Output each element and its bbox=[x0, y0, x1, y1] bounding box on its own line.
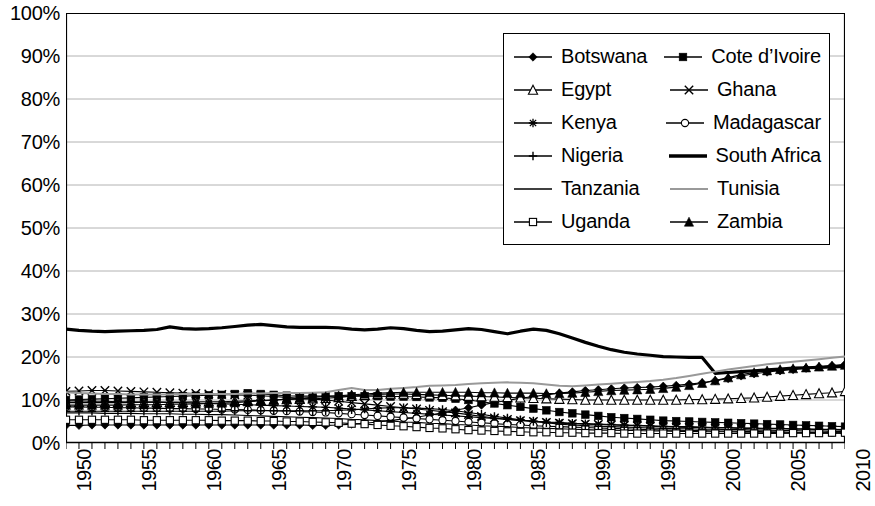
x-axis: 1950195519601965197019751980198519901995… bbox=[66, 449, 845, 506]
legend-item-ghana[interactable]: Ghana bbox=[668, 78, 776, 101]
y-axis-tick-label: 50% bbox=[21, 217, 60, 240]
legend-label: Uganda bbox=[561, 210, 630, 233]
x-axis-tick-label: 1975 bbox=[398, 449, 421, 492]
legend-item-uganda[interactable]: Uganda bbox=[512, 210, 668, 233]
legend-marker-icon bbox=[667, 146, 709, 166]
legend-label: Egypt bbox=[561, 78, 611, 101]
legend-label: South Africa bbox=[716, 144, 821, 167]
legend-marker-icon bbox=[668, 212, 710, 232]
x-axis-tick-label: 2005 bbox=[787, 449, 810, 492]
x-axis-tick-label: 1965 bbox=[268, 449, 291, 492]
legend-row: NigeriaSouth Africa bbox=[512, 139, 821, 172]
legend-row: BotswanaCote d’Ivoire bbox=[512, 40, 821, 73]
legend-row: KenyaMadagascar bbox=[512, 106, 821, 139]
y-axis-tick-label: 60% bbox=[21, 174, 60, 197]
y-axis-tick-label: 0% bbox=[32, 432, 60, 455]
legend-marker-icon bbox=[512, 80, 554, 100]
x-axis-tick-label: 1955 bbox=[138, 449, 161, 492]
y-axis-tick-label: 40% bbox=[21, 260, 60, 283]
legend-item-botswana[interactable]: Botswana bbox=[512, 45, 662, 68]
legend-label: Tanzania bbox=[561, 177, 639, 200]
legend-item-zambia[interactable]: Zambia bbox=[668, 210, 783, 233]
legend-label: Botswana bbox=[561, 45, 647, 68]
legend-item-south-africa[interactable]: South Africa bbox=[667, 144, 821, 167]
legend-item-egypt[interactable]: Egypt bbox=[512, 78, 668, 101]
x-axis-tick-label: 1950 bbox=[73, 449, 96, 492]
x-axis-tick-label: 2000 bbox=[722, 449, 745, 492]
legend-marker-icon bbox=[512, 179, 554, 199]
x-axis-tick-label: 2010 bbox=[852, 449, 875, 492]
y-axis-tick-label: 70% bbox=[21, 131, 60, 154]
legend-marker-icon bbox=[662, 47, 704, 67]
series-south-africa bbox=[66, 324, 845, 373]
data-series bbox=[66, 324, 845, 437]
legend-label: Zambia bbox=[717, 210, 783, 233]
legend-marker-icon bbox=[512, 113, 554, 133]
y-axis-tick-label: 10% bbox=[21, 389, 60, 412]
legend-item-tanzania[interactable]: Tanzania bbox=[512, 177, 668, 200]
legend-item-madagascar[interactable]: Madagascar bbox=[664, 111, 821, 134]
legend-row: UgandaZambia bbox=[512, 205, 821, 238]
legend-label: Cote d’Ivoire bbox=[711, 45, 821, 68]
x-axis-tick-label: 1980 bbox=[463, 449, 486, 492]
legend-marker-icon bbox=[664, 113, 706, 133]
chart-legend: BotswanaCote d’IvoireEgyptGhanaKenyaMada… bbox=[503, 33, 830, 245]
y-axis-tick-label: 90% bbox=[21, 45, 60, 68]
legend-label: Kenya bbox=[561, 111, 617, 134]
legend-item-nigeria[interactable]: Nigeria bbox=[512, 144, 667, 167]
legend-item-cote-d-ivoire[interactable]: Cote d’Ivoire bbox=[662, 45, 821, 68]
x-axis-tick-label: 1970 bbox=[333, 449, 356, 492]
y-axis-tick-label: 20% bbox=[21, 346, 60, 369]
legend-marker-icon bbox=[512, 47, 554, 67]
y-axis-tick-label: 30% bbox=[21, 303, 60, 326]
y-axis: 100%90%80%70%60%50%40%30%20%10%0% bbox=[0, 0, 60, 456]
x-axis-tick-label: 1990 bbox=[592, 449, 615, 492]
legend-row: EgyptGhana bbox=[512, 73, 821, 106]
legend-marker-icon bbox=[668, 179, 710, 199]
legend-label: Nigeria bbox=[561, 144, 623, 167]
x-axis-tick-label: 1995 bbox=[657, 449, 680, 492]
legend-row: TanzaniaTunisia bbox=[512, 172, 821, 205]
legend-marker-icon bbox=[512, 146, 554, 166]
y-axis-tick-label: 80% bbox=[21, 88, 60, 111]
legend-item-kenya[interactable]: Kenya bbox=[512, 111, 664, 134]
legend-item-tunisia[interactable]: Tunisia bbox=[668, 177, 779, 200]
legend-label: Madagascar bbox=[713, 111, 821, 134]
legend-marker-icon bbox=[668, 80, 710, 100]
y-axis-tick-label: 100% bbox=[10, 2, 60, 25]
legend-label: Tunisia bbox=[717, 177, 779, 200]
x-axis-tick-label: 1985 bbox=[527, 449, 550, 492]
legend-marker-icon bbox=[512, 212, 554, 232]
x-axis-tick-label: 1960 bbox=[203, 449, 226, 492]
legend-label: Ghana bbox=[717, 78, 776, 101]
